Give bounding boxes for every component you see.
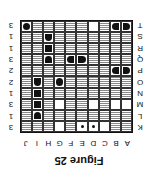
grid-cell[interactable] — [121, 99, 132, 110]
grid-cell[interactable] — [121, 32, 132, 43]
grid-cell[interactable] — [54, 110, 65, 121]
grid-cell[interactable] — [99, 99, 110, 110]
grid-cell[interactable] — [54, 88, 65, 99]
grid-cell[interactable] — [110, 88, 121, 99]
grid-cell[interactable] — [99, 110, 110, 121]
grid-cell[interactable] — [21, 43, 32, 54]
grid-cell[interactable] — [54, 21, 65, 32]
grid-cell[interactable] — [77, 21, 88, 32]
grid-cell[interactable] — [77, 54, 88, 65]
grid-cell[interactable] — [99, 43, 110, 54]
grid-cell[interactable] — [88, 54, 99, 65]
grid-cell[interactable] — [21, 99, 32, 110]
grid-cell[interactable] — [88, 32, 99, 43]
grid-cell[interactable] — [54, 65, 65, 76]
grid-cell[interactable] — [32, 77, 43, 88]
grid-cell[interactable] — [110, 21, 121, 32]
grid-cell[interactable] — [110, 110, 121, 121]
grid-cell[interactable] — [65, 43, 76, 54]
grid-cell[interactable] — [43, 88, 54, 99]
grid-cell[interactable] — [99, 88, 110, 99]
grid-cell[interactable] — [88, 99, 99, 110]
grid-cell[interactable] — [32, 21, 43, 32]
grid-cell[interactable] — [21, 65, 32, 76]
grid-cell[interactable] — [54, 43, 65, 54]
grid-cell[interactable] — [121, 54, 132, 65]
grid-cell[interactable] — [43, 32, 54, 43]
grid-cell[interactable] — [43, 43, 54, 54]
grid-cell[interactable] — [88, 77, 99, 88]
grid-cell[interactable] — [54, 99, 65, 110]
grid-cell[interactable] — [88, 65, 99, 76]
grid-cell[interactable] — [43, 99, 54, 110]
grid-cell[interactable] — [88, 121, 99, 132]
grid-cell[interactable] — [21, 110, 32, 121]
grid-cell[interactable] — [21, 54, 32, 65]
grid-cell[interactable] — [99, 121, 110, 132]
grid-cell[interactable] — [65, 99, 76, 110]
grid-cell[interactable] — [54, 54, 65, 65]
grid-cell[interactable] — [88, 88, 99, 99]
grid-cell[interactable] — [65, 32, 76, 43]
grid-cell[interactable] — [32, 99, 43, 110]
grid-cell[interactable] — [32, 88, 43, 99]
grid-cell[interactable] — [65, 77, 76, 88]
grid-cell[interactable] — [21, 21, 32, 32]
grid-cell[interactable] — [32, 110, 43, 121]
grid-cell[interactable] — [121, 43, 132, 54]
grid-cell[interactable] — [77, 32, 88, 43]
grid-cell[interactable] — [88, 110, 99, 121]
grid-cell[interactable] — [77, 43, 88, 54]
grid-cell[interactable] — [110, 43, 121, 54]
grid-cell[interactable] — [43, 77, 54, 88]
grid-cell[interactable] — [32, 43, 43, 54]
grid-cell[interactable] — [121, 77, 132, 88]
grid-cell[interactable] — [77, 77, 88, 88]
grid-cell[interactable] — [32, 65, 43, 76]
grid-cell[interactable] — [88, 43, 99, 54]
grid-cell[interactable] — [99, 32, 110, 43]
grid-cell[interactable] — [99, 77, 110, 88]
grid-cell[interactable] — [77, 99, 88, 110]
grid-cell[interactable] — [65, 110, 76, 121]
grid-cell[interactable] — [54, 32, 65, 43]
grid-cell[interactable] — [21, 88, 32, 99]
grid-cell[interactable] — [77, 110, 88, 121]
grid-cell[interactable] — [65, 121, 76, 132]
grid-cell[interactable] — [32, 121, 43, 132]
grid-cell[interactable] — [110, 32, 121, 43]
grid-cell[interactable] — [110, 54, 121, 65]
grid-cell[interactable] — [65, 54, 76, 65]
grid-cell[interactable] — [21, 77, 32, 88]
grid-cell[interactable] — [121, 21, 132, 32]
grid-cell[interactable] — [121, 121, 132, 132]
grid-cell[interactable] — [43, 21, 54, 32]
grid-cell[interactable] — [32, 32, 43, 43]
grid-cell[interactable] — [77, 65, 88, 76]
grid-cell[interactable] — [21, 32, 32, 43]
grid-cell[interactable] — [21, 121, 32, 132]
grid-cell[interactable] — [99, 65, 110, 76]
grid-cell[interactable] — [110, 121, 121, 132]
grid-cell[interactable] — [43, 121, 54, 132]
grid-cell[interactable] — [121, 110, 132, 121]
grid-cell[interactable] — [43, 65, 54, 76]
grid-cell[interactable] — [65, 65, 76, 76]
grid-cell[interactable] — [43, 54, 54, 65]
grid-cell[interactable] — [110, 65, 121, 76]
grid-cell[interactable] — [77, 121, 88, 132]
grid-cell[interactable] — [121, 88, 132, 99]
grid-cell[interactable] — [65, 21, 76, 32]
grid-cell[interactable] — [65, 88, 76, 99]
grid-cell[interactable] — [32, 54, 43, 65]
grid-cell[interactable] — [88, 21, 99, 32]
grid-cell[interactable] — [54, 121, 65, 132]
grid-cell[interactable] — [43, 110, 54, 121]
grid-cell[interactable] — [54, 77, 65, 88]
grid-cell[interactable] — [121, 65, 132, 76]
grid-cell[interactable] — [77, 88, 88, 99]
grid-cell[interactable] — [110, 77, 121, 88]
grid-cell[interactable] — [110, 99, 121, 110]
grid-cell[interactable] — [99, 54, 110, 65]
grid-cell[interactable] — [99, 21, 110, 32]
